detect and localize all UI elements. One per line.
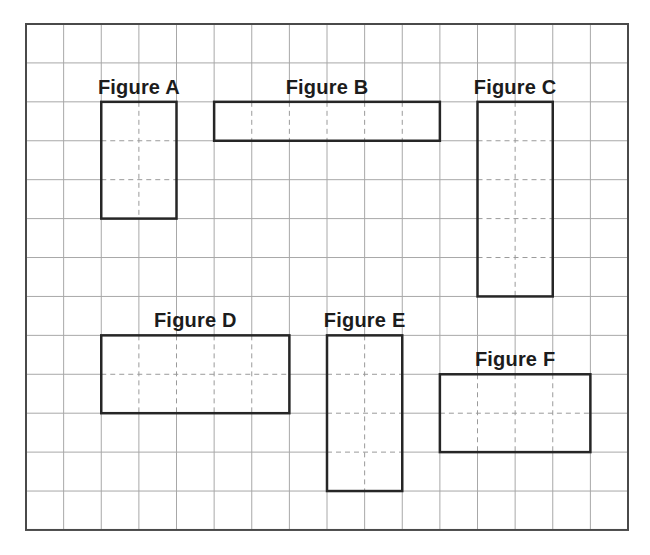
figure-e-rectangle bbox=[327, 335, 402, 491]
figure-f-rectangle bbox=[440, 374, 591, 452]
figure-f-label: Figure F bbox=[475, 348, 556, 370]
figure-a-rectangle bbox=[101, 102, 176, 219]
figure-d-rectangle bbox=[101, 335, 289, 413]
figure-b-rectangle bbox=[214, 102, 440, 141]
figure-c-label: Figure C bbox=[474, 76, 557, 98]
figure-a-label: Figure A bbox=[98, 76, 180, 98]
figure-e-label: Figure E bbox=[324, 309, 406, 331]
figure-b-label: Figure B bbox=[286, 76, 369, 98]
figure-c-rectangle bbox=[478, 102, 553, 297]
figure-d-label: Figure D bbox=[154, 309, 237, 331]
diagram-canvas: Figure A Figure B Figure C Figure D Figu… bbox=[0, 0, 650, 555]
